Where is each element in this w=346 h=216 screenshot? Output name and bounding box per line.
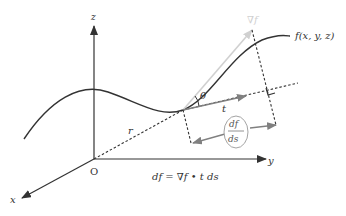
right-angle-marker bbox=[266, 88, 275, 95]
gradient-label: ∇f bbox=[247, 14, 260, 25]
x-axis-label: x bbox=[10, 194, 16, 205]
function-label: f(x, y, z) bbox=[294, 30, 335, 41]
gradient-arrow bbox=[183, 30, 252, 110]
z-axis-label: z bbox=[90, 12, 96, 22]
angle-label: θ bbox=[200, 90, 206, 101]
tangent-label: t bbox=[222, 103, 227, 114]
position-vector-label: r bbox=[128, 125, 134, 136]
function-curve bbox=[24, 35, 290, 139]
position-vector-r bbox=[94, 110, 183, 159]
diagram-canvas: z y x O f(x, y, z) r ∇f t θ df ds df = ∇… bbox=[0, 0, 346, 216]
projection-line bbox=[252, 30, 276, 125]
x-axis bbox=[22, 159, 94, 198]
drop-line bbox=[183, 110, 191, 143]
diagram-svg: z y x O f(x, y, z) r ∇f t θ df ds df = ∇… bbox=[0, 0, 346, 216]
derivative-denominator: ds bbox=[228, 134, 239, 144]
equation-label: df = ∇f • t ds bbox=[152, 171, 219, 182]
derivative-arrow-right bbox=[250, 125, 276, 128]
origin-label: O bbox=[90, 166, 98, 177]
y-axis-label: y bbox=[267, 155, 274, 166]
derivative-arrow-left bbox=[193, 134, 225, 143]
